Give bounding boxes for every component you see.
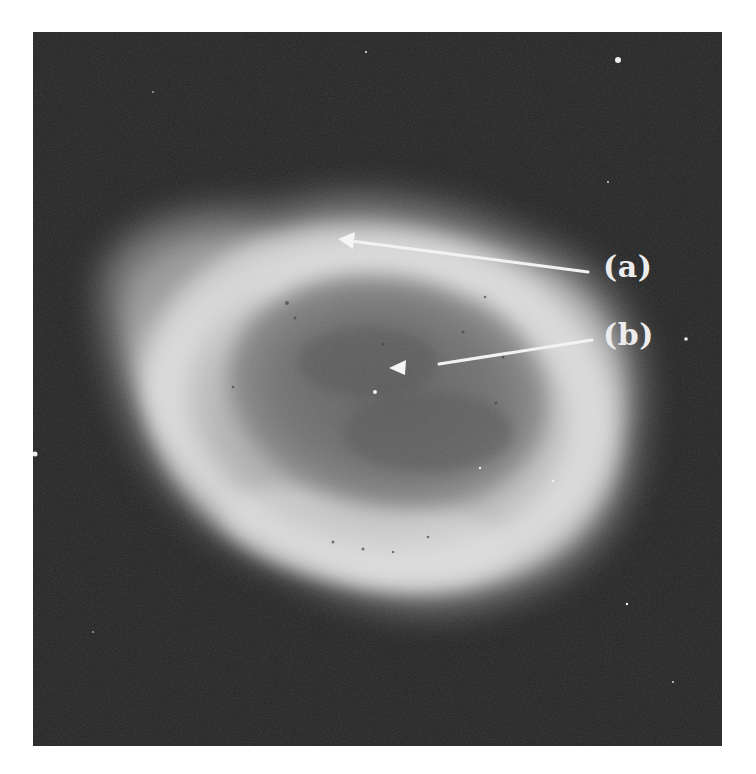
annotation-label-b: (b) bbox=[603, 320, 654, 350]
annotation-label-a: (a) bbox=[603, 252, 652, 282]
nebula-illustration bbox=[33, 32, 722, 746]
film-grain bbox=[33, 32, 722, 746]
nebula-photo bbox=[33, 32, 722, 746]
